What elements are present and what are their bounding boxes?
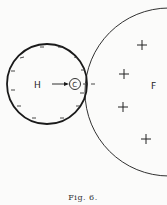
right-circle-f [85, 8, 167, 176]
label-h: H [34, 80, 41, 90]
arrow-icon [52, 82, 69, 86]
label-c: C [72, 81, 77, 89]
figure-caption: Fig. 6. [68, 193, 97, 202]
figure-diagram: H C F Fig. 6. [0, 0, 167, 205]
positive-charges-f [118, 40, 151, 144]
label-f: F [151, 81, 156, 91]
